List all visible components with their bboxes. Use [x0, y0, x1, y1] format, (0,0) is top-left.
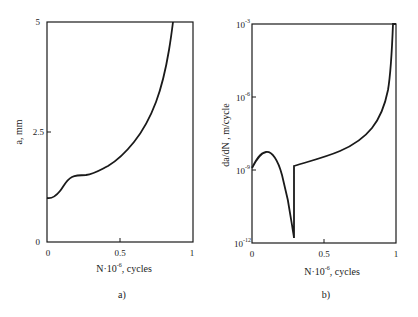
plot-frame-a — [47, 22, 193, 242]
ytick-a-0: 0 — [36, 237, 41, 247]
xtick-b-0: 0 — [250, 249, 255, 259]
curve-b — [252, 24, 396, 238]
figure: 5 2.5 0 0 0.5 1 a, mm N·10-6, cycles a) … — [0, 0, 418, 317]
ytick-b-1e-3: 10-3 — [236, 18, 250, 30]
panel-a: 5 2.5 0 0 0.5 1 a, mm N·10-6, cycles a) — [13, 17, 194, 301]
xtick-a-0: 0 — [46, 248, 51, 258]
ylabel-a: a, mm — [13, 119, 24, 144]
caption-b: b) — [322, 289, 330, 301]
ytick-b-1e-9: 10-9 — [236, 164, 250, 176]
ytick-a-2.5: 2.5 — [33, 127, 45, 137]
plot-frame-b — [252, 24, 396, 243]
ylabel-b: da/dN , m/cycle — [220, 103, 231, 167]
xtick-b-0.5: 0.5 — [318, 249, 330, 259]
ytick-b-1e-12: 10-12 — [234, 237, 251, 249]
caption-a: a) — [118, 289, 126, 301]
ytick-a-5: 5 — [36, 17, 41, 27]
xtick-a-1: 1 — [190, 248, 195, 258]
xtick-b-1: 1 — [394, 249, 399, 259]
xlabel-a: N·10-6, cycles — [96, 262, 152, 274]
curve-a — [47, 22, 173, 198]
xlabel-b: N·10-6, cycles — [304, 265, 360, 277]
panel-b: 10-3 10-6 10-9 10-12 0 0.5 1 da/dN , m/c… — [220, 18, 398, 301]
xtick-a-0.5: 0.5 — [114, 248, 126, 258]
ytick-b-1e-6: 10-6 — [236, 91, 250, 103]
